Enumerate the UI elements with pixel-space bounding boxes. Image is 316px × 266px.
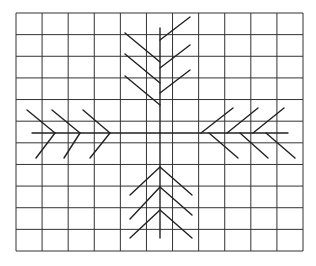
arrow-bottom [130,133,192,238]
arrow-barb [36,133,55,158]
cross-arrow-figure [27,17,295,238]
arrow-barb [160,17,190,40]
arrow-barb [240,133,268,158]
arrow-barb [160,210,192,238]
arrow-right [160,108,295,158]
arrow-barb [201,108,233,133]
arrow-barb [266,133,295,158]
arrow-barb [64,133,80,158]
arrow-barb [227,108,258,133]
arrow-left [27,110,160,158]
arrow-barb [209,133,238,158]
arrow-barb [90,133,110,158]
grid-diagram [0,0,316,266]
arrow-barb [253,108,284,133]
arrow-barb [125,76,160,105]
arrow-barb [160,70,190,93]
